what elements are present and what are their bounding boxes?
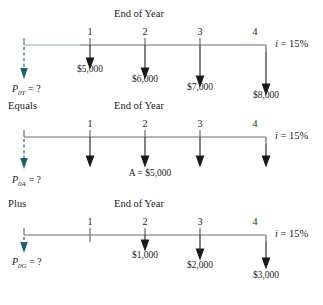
annuity-series-note: A = $5,000 [115, 168, 185, 178]
present-value-label-gradient: P0G = ? [12, 256, 42, 270]
panel-annuity-series: Equals End of Year 1 2 3 4 [0, 96, 323, 194]
interest-rate-label: i = 15% [275, 130, 308, 141]
interest-rate-symbol: i [275, 130, 278, 141]
cash-flow-diagram: End of Year 1 2 3 4 [0, 0, 323, 305]
unknown-present-value-arrow-gradient [20, 237, 28, 253]
present-value-label-annuity: P0A = ? [12, 174, 41, 188]
interest-rate-value: = 15% [281, 228, 309, 239]
interest-rate-value: = 15% [281, 130, 309, 141]
cash-flow-amount-year-1: $5,000 [62, 64, 118, 74]
timeline-graphic-annuity [0, 96, 323, 194]
interest-rate-label: i = 15% [275, 38, 308, 49]
timeline-graphic-total [0, 0, 323, 100]
cash-flow-amount-year-3: $7,000 [172, 82, 228, 92]
panel-gradient-series: Plus End of Year 1 2 3 4 [0, 194, 323, 305]
unknown-present-value-arrow-total [20, 47, 28, 79]
cash-flow-amount-year-4: $3,000 [238, 270, 294, 280]
present-value-label-total: P0T = ? [12, 83, 41, 97]
interest-rate-symbol: i [275, 228, 278, 239]
interest-rate-label: i = 15% [275, 228, 308, 239]
unknown-present-value-arrow-annuity [20, 139, 28, 169]
panel-total-series: End of Year 1 2 3 4 [0, 0, 323, 100]
interest-rate-symbol: i [275, 38, 278, 49]
cash-flow-amount-year-3: $2,000 [172, 260, 228, 270]
cash-flow-amount-year-2: $6,000 [117, 74, 173, 84]
interest-rate-value: = 15% [281, 38, 309, 49]
cash-flow-amount-year-2: $1,000 [117, 250, 173, 260]
